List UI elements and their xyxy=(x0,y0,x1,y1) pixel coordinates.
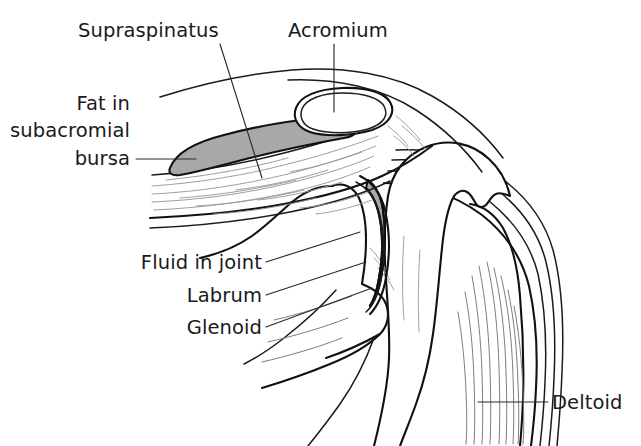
humeral-head xyxy=(374,143,510,446)
label-deltoid: Deltoid xyxy=(552,391,623,414)
label-fat-in-bursa-line3: bursa xyxy=(75,147,130,170)
label-fat-in-bursa-line2: subacromial xyxy=(10,119,130,142)
label-fat-in-bursa-line1: Fat in xyxy=(76,92,130,115)
label-labrum: Labrum xyxy=(187,284,262,307)
label-acromium: Acromium xyxy=(288,19,388,42)
deltoid-striations xyxy=(458,262,524,444)
label-fluid-in-joint: Fluid in joint xyxy=(141,251,262,274)
anatomy-figure: Supraspinatus Acromium Fat in subacromia… xyxy=(0,0,641,446)
label-supraspinatus: Supraspinatus xyxy=(78,19,219,42)
label-glenoid: Glenoid xyxy=(187,316,262,339)
acromium-bone xyxy=(295,88,392,135)
